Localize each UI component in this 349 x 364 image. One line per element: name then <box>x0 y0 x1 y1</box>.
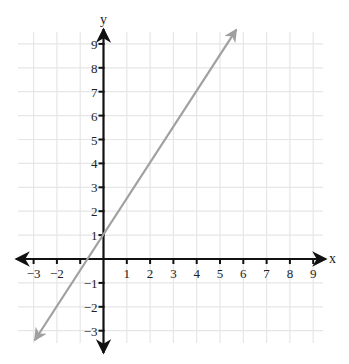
x-tick-label: 8 <box>287 266 294 281</box>
x-tick-label: 2 <box>147 266 154 281</box>
x-axis-label: x <box>329 251 336 266</box>
y-tick-label: 7 <box>91 85 98 100</box>
line-series <box>35 30 237 341</box>
axes <box>16 29 326 353</box>
x-tick-label: 6 <box>240 266 247 281</box>
coordinate-plane: −3−2123456789−3−2−1123456789 x y <box>0 0 349 364</box>
x-tick-label: 7 <box>263 266 270 281</box>
y-tick-label: 3 <box>91 180 98 195</box>
x-tick-label: 4 <box>193 266 200 281</box>
y-tick-label: 5 <box>91 133 98 148</box>
x-tick-label: −2 <box>50 266 64 281</box>
y-tick-label: 4 <box>91 156 98 171</box>
plotted-line <box>35 30 237 341</box>
x-tick-label: 3 <box>170 266 177 281</box>
y-tick-label: −2 <box>84 300 98 315</box>
x-tick-label: 5 <box>217 266 224 281</box>
y-axis-label: y <box>100 12 107 27</box>
x-tick-label: 1 <box>124 266 131 281</box>
y-tick-label: 1 <box>91 228 98 243</box>
y-tick-label: −3 <box>84 324 98 339</box>
y-tick-label: 9 <box>91 37 98 52</box>
y-tick-label: −1 <box>84 276 98 291</box>
x-tick-label: 9 <box>310 266 317 281</box>
y-tick-label: 6 <box>91 109 98 124</box>
y-tick-label: 8 <box>91 61 98 76</box>
x-tick-label: −3 <box>27 266 41 281</box>
y-tick-label: 2 <box>91 204 98 219</box>
